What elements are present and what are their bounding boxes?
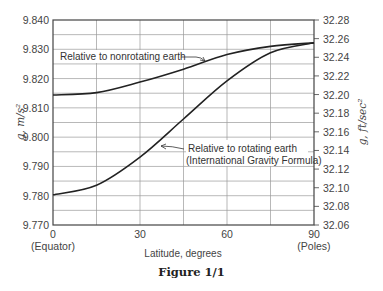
y-tick-label-right: 32.22 [323, 70, 349, 82]
x-tick-label: 30 [134, 228, 146, 240]
y-tick-label-right: 32.24 [323, 51, 349, 63]
y-tick-label-right: 32.14 [323, 144, 349, 156]
y-tick-label-right: 32.12 [323, 163, 349, 175]
gravity-latitude-chart: 9.8409.8309.8209.8109.8009.7909.7809.770… [0, 0, 383, 291]
y-axis-title-left: g, m/s² [14, 104, 26, 141]
y-tick-label-right: 32.10 [323, 182, 349, 194]
annotation-nonrotating-label: Relative to nonrotating earth [60, 51, 186, 62]
annotation-nonrotating: Relative to nonrotating earth [58, 50, 205, 63]
annotation-rotating-sublabel: (International Gravity Formula) [186, 155, 322, 166]
y-tick-label-right: 32.16 [323, 126, 349, 138]
y-tick-label-left: 9.800 [23, 131, 49, 143]
y-axis-left: 9.8409.8309.8209.8109.8009.7909.7809.770 [23, 14, 49, 231]
y-axis-right: 32.2832.2632.2432.2232.2032.1832.1632.14… [314, 14, 349, 231]
y-tick-label-left: 9.810 [23, 102, 49, 114]
annotation-arrow [161, 146, 184, 149]
y-tick-label-left: 9.790 [23, 160, 49, 172]
y-tick-label-right: 32.18 [323, 107, 349, 119]
x-tick-sublabel: (Equator) [31, 240, 75, 252]
figure-caption: Figure 1/1 [0, 265, 383, 279]
x-tick-sublabel: (Poles) [297, 240, 330, 252]
y-tick-label-left: 9.820 [23, 73, 49, 85]
y-tick-label-right: 32.26 [323, 33, 349, 45]
y-tick-label-left: 9.780 [23, 190, 49, 202]
y-tick-label-left: 9.770 [23, 219, 49, 231]
annotation-rotating: Relative to rotating earth (Internationa… [161, 140, 322, 166]
y-tick-label-left: 9.830 [23, 43, 49, 55]
x-tick-label: 60 [221, 228, 233, 240]
x-axis-title: Latitude, degrees [144, 248, 221, 259]
annotation-rotating-label: Relative to rotating earth [188, 143, 297, 154]
x-tick-label: 0 [50, 228, 56, 240]
y-tick-label-right: 32.06 [323, 219, 349, 231]
y-axis-title-right: g, ft/sec² [356, 99, 368, 146]
y-tick-label-right: 32.28 [323, 14, 349, 26]
y-tick-label-left: 9.840 [23, 14, 49, 26]
x-tick-label: 90 [308, 228, 320, 240]
y-tick-label-right: 32.20 [323, 89, 349, 101]
y-tick-label-right: 32.08 [323, 200, 349, 212]
